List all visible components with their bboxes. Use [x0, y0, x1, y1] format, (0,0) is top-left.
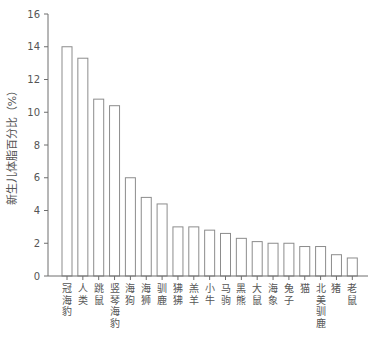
bar	[78, 58, 88, 276]
x-category-label: 猫	[300, 282, 310, 294]
y-tick-label: 16	[27, 9, 40, 20]
y-tick-label: 8	[34, 140, 40, 151]
y-tick-label: 10	[27, 107, 40, 118]
bar	[221, 233, 231, 276]
y-tick-label: 12	[27, 74, 40, 85]
x-category-label: 竖琴海豹	[110, 283, 120, 329]
x-category-label: 北美驯鹿	[316, 283, 326, 329]
bar	[300, 247, 310, 276]
bar-chart: 0246810121416 冠海豹人类跳鼠竖琴海豹海狗海狮驯鹿狒狒羔羊小牛马驹黑…	[0, 0, 380, 348]
y-axis-label: 新生儿体脂百分比（%）	[5, 85, 19, 205]
x-category-label: 冠海豹	[62, 283, 72, 317]
y-tick-label: 2	[34, 238, 40, 249]
x-category-label: 马驹	[221, 283, 231, 306]
x-category-label: 驯鹿	[157, 283, 167, 306]
y-tick-label: 4	[34, 205, 40, 216]
bar	[205, 230, 215, 276]
x-category-label: 海狮	[141, 282, 151, 306]
bar	[284, 243, 294, 276]
bar	[94, 99, 104, 276]
x-category-label: 羔羊	[189, 283, 199, 306]
bar	[125, 178, 135, 276]
x-category-label: 跳鼠	[94, 282, 104, 306]
bar	[252, 242, 262, 276]
x-category-label: 大鼠	[252, 282, 262, 306]
bar	[141, 197, 151, 276]
bar	[331, 255, 341, 276]
bar	[189, 227, 199, 276]
x-category-label: 猪	[331, 283, 341, 294]
bar	[173, 227, 183, 276]
x-category-label: 小牛	[205, 283, 215, 306]
bar	[316, 247, 326, 276]
x-category-label: 人类	[78, 283, 88, 306]
x-category-label: 海狗	[125, 282, 135, 306]
x-category-label: 狒狒	[173, 282, 183, 306]
bar	[236, 238, 246, 276]
bars	[62, 47, 357, 276]
y-tick-label: 6	[34, 172, 40, 183]
y-tick-label: 14	[27, 41, 40, 52]
x-category-label: 老鼠	[347, 282, 357, 306]
bar	[268, 243, 278, 276]
x-category-label: 黑熊	[236, 283, 246, 306]
bar	[157, 204, 167, 276]
bar	[62, 47, 72, 276]
y-tick-label: 0	[34, 271, 40, 282]
bar	[347, 258, 357, 276]
y-axis: 0246810121416	[27, 9, 48, 282]
x-category-label: 海象	[268, 282, 278, 306]
x-category-label: 兔子	[284, 282, 294, 306]
bar	[110, 106, 120, 276]
x-axis: 冠海豹人类跳鼠竖琴海豹海狗海狮驯鹿狒狒羔羊小牛马驹黑熊大鼠海象兔子猫北美驯鹿猪老…	[48, 276, 368, 329]
